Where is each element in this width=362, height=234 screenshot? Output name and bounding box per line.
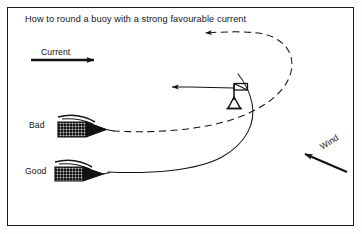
buoy-mark bbox=[227, 84, 248, 109]
current-label: Current bbox=[41, 47, 70, 57]
bad-track bbox=[113, 32, 292, 132]
bad-boat bbox=[58, 115, 114, 137]
diagram-title: How to round a buoy with a strong favour… bbox=[25, 14, 246, 24]
good-track bbox=[108, 74, 253, 173]
good-boat bbox=[55, 160, 110, 181]
diagram-figure: How to round a buoy with a strong favour… bbox=[0, 0, 362, 234]
diagram-canvas bbox=[0, 0, 362, 234]
bad-label: Bad bbox=[29, 120, 45, 130]
buoy-current-arrow bbox=[172, 87, 234, 88]
good-label: Good bbox=[25, 166, 46, 176]
wind-arrow bbox=[305, 154, 347, 172]
